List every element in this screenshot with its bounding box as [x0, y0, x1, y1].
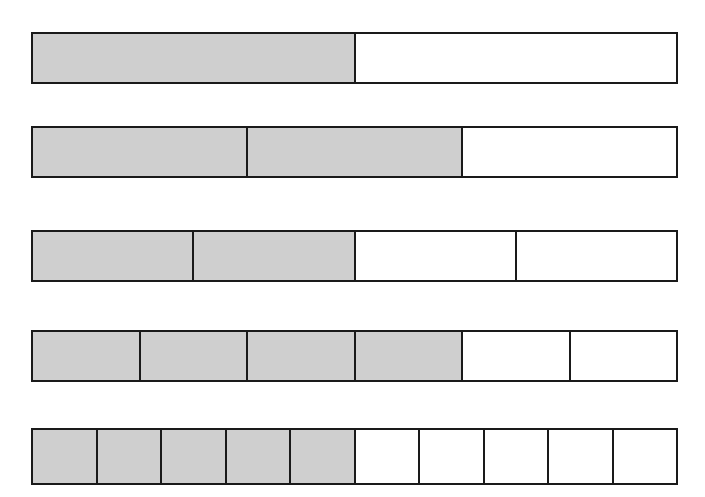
shaded-part-cell — [227, 430, 292, 483]
unshaded-part-cell — [420, 430, 485, 483]
bar-two-fourths — [31, 230, 678, 282]
shaded-part-cell — [33, 128, 248, 176]
shaded-part-cell — [33, 34, 356, 82]
unshaded-part-cell — [463, 332, 571, 380]
unshaded-part-cell — [549, 430, 614, 483]
shaded-part-cell — [162, 430, 227, 483]
bar-five-tenths — [31, 428, 678, 485]
unshaded-part-cell — [614, 430, 677, 483]
shaded-part-cell — [33, 430, 98, 483]
shaded-part-cell — [248, 332, 356, 380]
unshaded-part-cell — [571, 332, 677, 380]
shaded-part-cell — [33, 232, 194, 280]
unshaded-part-cell — [517, 232, 676, 280]
shaded-part-cell — [194, 232, 355, 280]
shaded-part-cell — [33, 332, 141, 380]
shaded-part-cell — [248, 128, 463, 176]
bar-four-sixths — [31, 330, 678, 382]
unshaded-part-cell — [356, 232, 517, 280]
shaded-part-cell — [98, 430, 163, 483]
bar-one-half — [31, 32, 678, 84]
fraction-bars-figure — [0, 0, 705, 497]
bar-two-thirds — [31, 126, 678, 178]
shaded-part-cell — [356, 332, 464, 380]
unshaded-part-cell — [485, 430, 550, 483]
unshaded-part-cell — [356, 34, 677, 82]
shaded-part-cell — [141, 332, 249, 380]
unshaded-part-cell — [356, 430, 421, 483]
shaded-part-cell — [291, 430, 356, 483]
unshaded-part-cell — [463, 128, 676, 176]
